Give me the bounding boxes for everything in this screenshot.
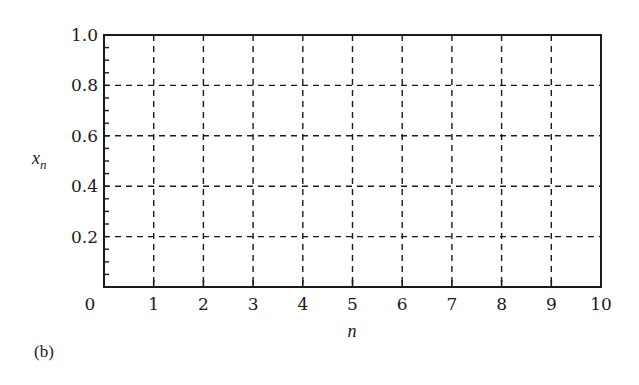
axis-ticks	[104, 48, 551, 287]
y-axis-label-subscript: n	[40, 157, 47, 172]
y-tick-label: 0.6	[71, 126, 98, 146]
x-tick-label: 9	[546, 294, 557, 314]
chart: 012345678910 0.20.40.60.81.0 n xn (b)	[0, 0, 639, 385]
y-tick-label: 0.8	[71, 75, 98, 95]
y-tick-label: 0.4	[71, 176, 98, 196]
x-tick-label: 7	[446, 294, 457, 314]
grid-lines	[104, 35, 601, 287]
x-tick-label: 1	[148, 294, 159, 314]
y-tick-labels: 0.20.40.60.81.0	[71, 25, 98, 247]
y-tick-label: 1.0	[71, 25, 98, 45]
x-tick-label: 6	[397, 294, 408, 314]
x-tick-labels: 012345678910	[85, 294, 612, 314]
x-tick-label: 8	[496, 294, 507, 314]
y-axis-label-main: x	[31, 148, 40, 168]
x-tick-label: 10	[590, 294, 612, 314]
panel-label: (b)	[34, 342, 54, 361]
x-tick-label: 4	[297, 294, 308, 314]
y-tick-label: 0.2	[71, 227, 98, 247]
x-tick-label: 2	[198, 294, 209, 314]
x-axis-label: n	[348, 321, 357, 341]
x-tick-label: 3	[248, 294, 259, 314]
x-tick-label: 5	[347, 294, 358, 314]
x-tick-label: 0	[85, 294, 96, 314]
y-axis-label: xn	[31, 148, 47, 172]
